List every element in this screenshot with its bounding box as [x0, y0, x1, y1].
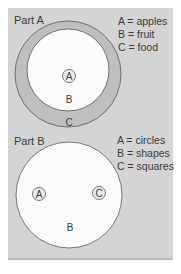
- label-b: B: [66, 94, 73, 105]
- legend-b-line1: A = circles: [117, 134, 165, 146]
- legend-a-line1: A = apples: [118, 15, 167, 27]
- legend-a-line3: C = food: [118, 41, 158, 53]
- label-a: A: [36, 189, 43, 200]
- label-c: C: [65, 117, 72, 128]
- legend-b-line2: B = shapes: [117, 147, 170, 159]
- label-a: A: [66, 71, 73, 82]
- part-a-title: Part A: [14, 14, 45, 26]
- part-b: Part B A C B A = circles B = shapes C = …: [14, 134, 174, 248]
- venn-diagrams: Part A A B C A = apples B = fruit C = fo…: [0, 0, 181, 274]
- part-b-title: Part B: [14, 135, 45, 147]
- label-c: C: [95, 188, 102, 199]
- label-b: B: [67, 222, 74, 233]
- legend-a-line2: B = fruit: [118, 28, 155, 40]
- part-a: Part A A B C A = apples B = fruit C = fo…: [14, 14, 167, 128]
- legend-b-line3: C = squares: [117, 160, 174, 172]
